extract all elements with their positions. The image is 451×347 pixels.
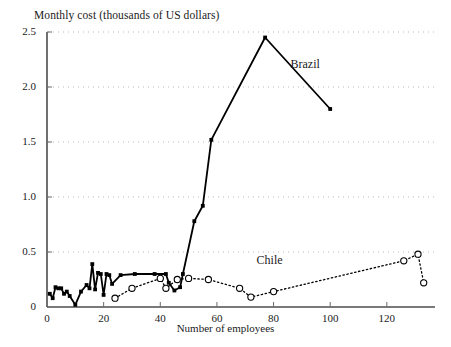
data-point-marker	[119, 273, 123, 277]
data-point-marker	[209, 138, 213, 142]
data-point-marker	[88, 286, 92, 290]
data-point-marker	[129, 285, 135, 291]
data-point-marker	[237, 285, 243, 291]
data-point-marker	[328, 107, 332, 111]
data-point-marker	[164, 272, 168, 276]
y-tick-label: 0	[2, 301, 36, 312]
data-point-marker	[107, 273, 111, 277]
data-point-marker	[181, 272, 185, 276]
axis-lines	[47, 32, 435, 307]
data-point-marker	[110, 282, 114, 286]
x-axis-title: Number of employees	[0, 322, 451, 334]
data-point-marker	[90, 262, 94, 266]
data-point-marker	[157, 275, 163, 281]
data-point-marker	[153, 272, 157, 276]
series-label-chile: Chile	[257, 253, 283, 268]
data-point-marker	[186, 275, 192, 281]
y-tick-label: 2.5	[2, 26, 36, 37]
data-point-marker	[51, 296, 55, 300]
data-point-marker	[59, 286, 63, 290]
data-point-marker	[85, 283, 89, 287]
data-point-marker	[421, 280, 427, 286]
y-tick-label: 0.5	[2, 246, 36, 257]
data-point-marker	[205, 276, 211, 282]
data-point-marker	[248, 294, 254, 300]
data-point-marker	[201, 204, 205, 208]
data-point-marker	[263, 36, 267, 40]
series-brazil	[48, 36, 332, 307]
data-point-marker	[163, 285, 169, 291]
y-tick-label: 2.0	[2, 81, 36, 92]
chart-title: Monthly cost (thousands of US dollars)	[34, 9, 220, 21]
data-point-marker	[99, 272, 103, 276]
data-point-marker	[271, 289, 277, 295]
data-point-marker	[79, 290, 83, 294]
data-point-marker	[48, 292, 52, 296]
data-point-marker	[102, 293, 106, 297]
data-point-marker	[174, 276, 180, 282]
data-point-marker	[73, 303, 77, 307]
chart-container: Monthly cost (thousands of US dollars) 0…	[0, 0, 451, 347]
data-point-marker	[178, 285, 182, 289]
y-tick-label: 1.0	[2, 191, 36, 202]
data-point-marker	[112, 295, 118, 301]
data-point-marker	[415, 251, 421, 257]
data-point-marker	[65, 290, 69, 294]
series-label-brazil: Brazil	[291, 57, 320, 72]
data-point-marker	[133, 272, 137, 276]
y-tick-label: 1.5	[2, 136, 36, 147]
data-point-marker	[167, 281, 171, 285]
data-point-marker	[68, 294, 72, 298]
data-point-marker	[401, 258, 407, 264]
plot-area	[0, 0, 451, 347]
gridlines	[48, 32, 435, 252]
data-point-marker	[173, 289, 177, 293]
data-point-marker	[93, 288, 97, 292]
data-point-marker	[192, 219, 196, 223]
